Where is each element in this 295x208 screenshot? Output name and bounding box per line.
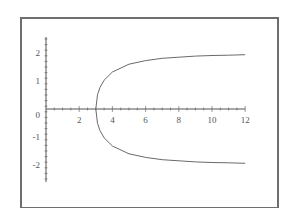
hyperbola-plot: 24681012210-1-2	[0, 0, 295, 208]
y-tick-label: 2	[36, 48, 41, 58]
lower-branch-curve	[96, 109, 245, 163]
y-tick-label: -2	[33, 160, 41, 170]
x-tick-label: 4	[110, 115, 115, 125]
x-tick-label: 8	[177, 115, 182, 125]
upper-branch-curve	[96, 55, 245, 109]
y-tick-label: -1	[33, 132, 41, 142]
y-tick-label: 1	[36, 76, 41, 86]
x-tick-label: 2	[77, 115, 82, 125]
x-tick-label: 6	[143, 115, 148, 125]
axes	[45, 37, 246, 182]
x-tick-label: 10	[208, 115, 218, 125]
y-tick-label: 0	[36, 110, 41, 120]
x-tick-label: 12	[241, 115, 250, 125]
